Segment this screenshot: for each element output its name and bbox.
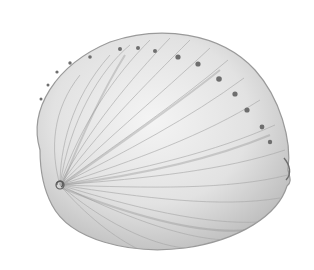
shell-illustration [0, 0, 314, 270]
